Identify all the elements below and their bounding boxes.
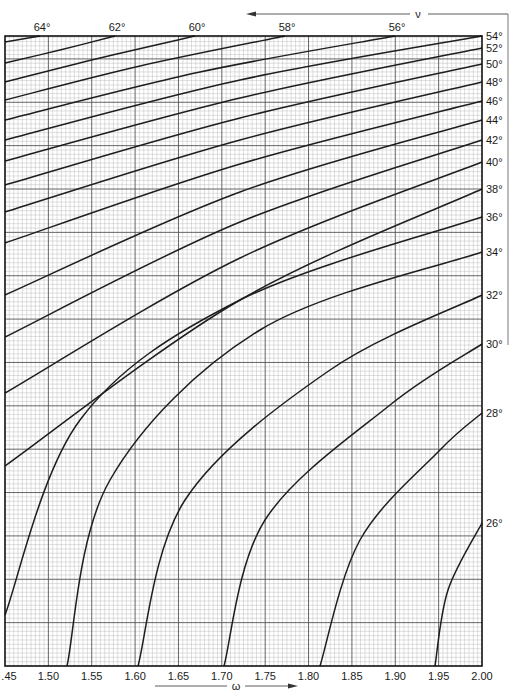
curve-58deg [5, 36, 285, 100]
right-label: 26° [486, 517, 503, 529]
right-label: 52° [486, 42, 503, 54]
right-label: 30° [486, 338, 503, 350]
right-label: 32° [486, 289, 503, 301]
right-label: 48° [486, 76, 503, 88]
right-label: 28° [486, 407, 503, 419]
x-tick-label: 1.95 [428, 670, 449, 682]
top-label: 58° [279, 21, 296, 33]
omega-axis-label: ω [232, 680, 241, 692]
x-tick-label: 1.65 [168, 670, 189, 682]
nu-axis-label: ν [415, 8, 421, 20]
top-curve-labels: 64°62°60°58°56° [34, 21, 406, 33]
right-label: 44° [486, 114, 503, 126]
right-curve-labels: 54°52°50°48°46°44°42°40°38°36°34°32°30°2… [486, 30, 503, 529]
chart-plot: 64°62°60°58°56° 54°52°50°48°46°44°42°40°… [0, 0, 517, 694]
curve-28deg [320, 413, 482, 666]
right-label: 50° [486, 58, 503, 70]
x-tick-label: 1.60 [124, 670, 145, 682]
x-tick-label: .45 [1, 670, 16, 682]
x-tick-label: 1.55 [81, 670, 102, 682]
x-tick-label: 1.90 [385, 670, 406, 682]
right-label: 54° [486, 30, 503, 42]
top-label: 64° [34, 21, 51, 33]
right-label: 38° [486, 183, 503, 195]
right-label: 42° [486, 134, 503, 146]
x-tick-label: 1.85 [341, 670, 362, 682]
curve-34deg [67, 252, 482, 666]
chart: 64°62°60°58°56° 54°52°50°48°46°44°42°40°… [0, 0, 517, 694]
right-label: 34° [486, 246, 503, 258]
arrow-right-icon [288, 684, 298, 689]
right-label: 36° [486, 211, 503, 223]
top-label: 56° [389, 21, 406, 33]
right-label: 40° [486, 156, 503, 168]
x-tick-label: 1.80 [298, 670, 319, 682]
x-tick-label: 2.00 [471, 670, 492, 682]
top-label: 62° [109, 21, 126, 33]
right-label: 46° [486, 95, 503, 107]
x-tick-label: 1.75 [254, 670, 275, 682]
top-label: 60° [189, 21, 206, 33]
x-tick-label: 1.70 [211, 670, 232, 682]
x-tick-label: 1.50 [38, 670, 59, 682]
curve-30deg [224, 344, 482, 666]
curve-32deg [138, 295, 482, 666]
arrow-left-icon [246, 12, 256, 17]
x-axis-tick-labels: .451.501.551.601.651.701.751.801.851.901… [1, 670, 492, 682]
